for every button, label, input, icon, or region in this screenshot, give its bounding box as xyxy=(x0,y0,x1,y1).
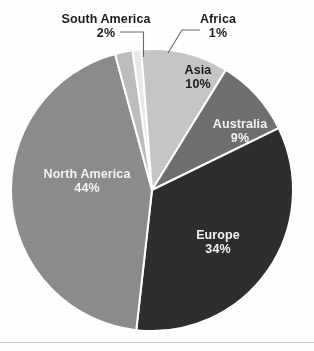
pie-label-australia-value: 9% xyxy=(203,131,277,145)
pie-label-asia-name: Asia xyxy=(170,63,226,77)
pie-label-europe-value: 34% xyxy=(183,242,253,256)
pie-chart-figure: South America 2% Africa 1% Asia 10% Aust… xyxy=(0,0,314,351)
pie-label-australia-name: Australia xyxy=(203,117,277,131)
pie-label-africa-value: 1% xyxy=(176,26,260,40)
pie-label-europe-name: Europe xyxy=(183,228,253,242)
pie-label-australia: Australia 9% xyxy=(203,117,277,145)
pie-label-north-america-value: 44% xyxy=(25,181,149,195)
pie-label-asia-value: 10% xyxy=(170,77,226,91)
pie-label-north-america-name: North America xyxy=(25,167,149,181)
pie-label-asia: Asia 10% xyxy=(170,63,226,91)
pie-label-africa: Africa 1% xyxy=(176,12,260,40)
pie-label-south-america-value: 2% xyxy=(36,26,176,40)
pie-label-south-america: South America 2% xyxy=(36,12,176,40)
pie-label-africa-name: Africa xyxy=(176,12,260,26)
pie-label-europe: Europe 34% xyxy=(183,228,253,256)
pie-label-south-america-name: South America xyxy=(36,12,176,26)
pie-label-north-america: North America 44% xyxy=(25,167,149,195)
bottom-rule xyxy=(0,342,314,343)
